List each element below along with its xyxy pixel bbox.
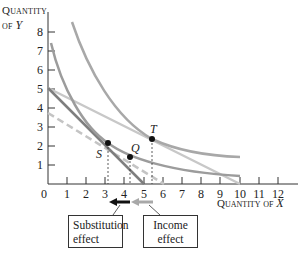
income-callout-line [149, 205, 160, 215]
svg-text:8: 8 [198, 187, 204, 201]
point-t [149, 136, 155, 142]
point-t-label: T [150, 122, 158, 136]
svg-text:4: 4 [121, 187, 127, 201]
svg-text:2: 2 [83, 187, 89, 201]
x-axis-label: Quantity of X [217, 196, 284, 211]
svg-text:1: 1 [64, 187, 70, 201]
svg-text:6: 6 [37, 63, 43, 77]
origin-label: 0 [41, 187, 47, 201]
svg-text:5: 5 [141, 187, 147, 201]
point-s [105, 140, 111, 146]
budget-line-compensated [48, 113, 164, 184]
svg-text:6: 6 [160, 187, 166, 201]
y-tick-labels: 1 2 3 4 5 6 7 8 [37, 25, 43, 172]
point-s-label: S [96, 147, 102, 161]
substitution-callout-line [113, 205, 120, 215]
point-q-label: Q [131, 141, 140, 155]
budget-line-original [48, 88, 240, 184]
svg-text:4: 4 [37, 101, 43, 115]
svg-text:1: 1 [37, 158, 43, 172]
svg-text:7: 7 [37, 44, 43, 58]
substitution-effect-box: Substitution effect [68, 215, 123, 248]
svg-text:7: 7 [179, 187, 185, 201]
income-effect-box: Income effect [143, 215, 198, 248]
y-axis-label: Quantity of Y [2, 3, 47, 33]
svg-text:2: 2 [37, 139, 43, 153]
x-ticks [67, 177, 278, 184]
svg-text:5: 5 [37, 82, 43, 96]
svg-text:3: 3 [102, 187, 108, 201]
svg-text:3: 3 [37, 120, 43, 134]
